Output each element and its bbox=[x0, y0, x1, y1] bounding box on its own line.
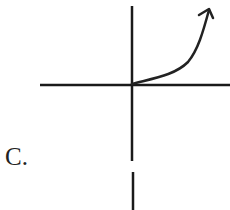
option-label: C. bbox=[5, 143, 28, 171]
exponential-curve bbox=[132, 10, 209, 84]
graph-sketch bbox=[0, 0, 230, 210]
y-axis bbox=[132, 6, 133, 210]
